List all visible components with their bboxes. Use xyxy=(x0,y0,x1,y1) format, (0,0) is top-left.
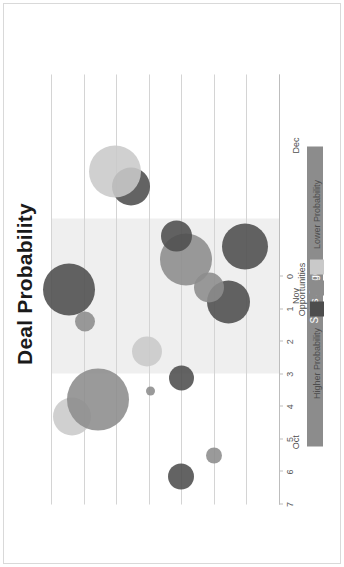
legend-swatch-1 xyxy=(310,281,324,296)
chart-rotation-wrapper: Deal Probability 76543210 OctNovDec Sale… xyxy=(0,0,344,567)
legend-items-row: Higher Probability Lower Probability xyxy=(310,74,324,504)
data-bubble[interactable] xyxy=(43,263,95,315)
plot-area xyxy=(51,74,279,504)
chart-title: Deal Probability xyxy=(13,11,37,556)
axis-tick xyxy=(279,503,283,504)
legend-swatch-group xyxy=(310,257,324,320)
legend-label-lower: Lower Probability xyxy=(312,179,322,248)
data-bubble[interactable] xyxy=(169,365,194,390)
gridline-stage-5 xyxy=(116,74,117,504)
axis-tick xyxy=(279,470,283,471)
data-bubble[interactable] xyxy=(206,447,222,463)
axis-tick-label: 2 xyxy=(285,326,295,356)
data-bubble[interactable] xyxy=(161,220,192,251)
legend-swatch-2 xyxy=(310,260,324,275)
data-bubble[interactable] xyxy=(67,368,129,430)
bubble-chart: Deal Probability 76543210 OctNovDec Sale… xyxy=(7,11,337,556)
axis-tick xyxy=(279,438,283,439)
gridline-stage-1 xyxy=(246,74,247,504)
axis-tick xyxy=(279,373,283,374)
axis-tick xyxy=(279,340,283,341)
data-bubble[interactable] xyxy=(168,463,194,489)
chart-legend: Opportunities Higher Probability Lower P… xyxy=(297,74,329,504)
data-bubble[interactable] xyxy=(146,386,155,395)
axis-tick-label: 3 xyxy=(285,359,295,389)
gridline-stage-3 xyxy=(181,74,182,504)
legend-swatch-0 xyxy=(310,302,324,317)
axis-tick xyxy=(279,275,283,276)
gridline-stage-4 xyxy=(149,74,150,504)
legend-title: Opportunities xyxy=(297,74,307,504)
axis-tick xyxy=(279,308,283,309)
data-bubble[interactable] xyxy=(75,311,95,331)
data-bubble[interactable] xyxy=(222,223,268,269)
screenshot-root: Deal Probability 76543210 OctNovDec Sale… xyxy=(0,0,344,567)
data-bubble[interactable] xyxy=(132,336,162,366)
value-axis-line xyxy=(279,74,280,504)
legend-label-higher: Higher Probability xyxy=(312,328,322,399)
data-bubble[interactable] xyxy=(89,145,141,197)
axis-tick-label: 7 xyxy=(285,489,295,519)
axis-tick xyxy=(279,405,283,406)
